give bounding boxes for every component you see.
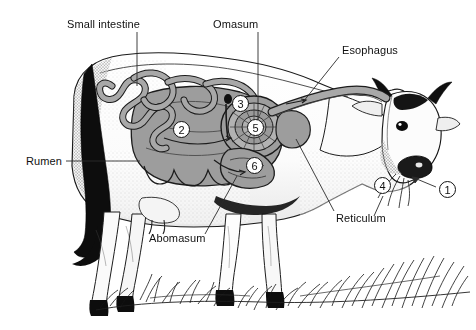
eye <box>396 121 408 131</box>
callout-number-4: 4 <box>374 177 391 194</box>
label-reticulum: Reticulum <box>336 212 386 224</box>
label-small-intestine: Small intestine <box>67 18 140 30</box>
horn-right <box>428 82 452 104</box>
front-leg-far <box>262 214 282 302</box>
callout-number-1: 1 <box>439 181 456 198</box>
callout-number-6: 6 <box>246 157 263 174</box>
hind-hoof-far <box>116 296 134 312</box>
cardia-marking <box>224 94 232 104</box>
label-esophagus: Esophagus <box>342 44 398 56</box>
muzzle <box>398 156 432 178</box>
label-abomasum: Abomasum <box>149 232 205 244</box>
callout-number-5: 5 <box>247 119 264 136</box>
front-hoof-far <box>266 292 284 308</box>
callout-number-3: 3 <box>232 95 249 112</box>
label-rumen: Rumen <box>26 155 62 167</box>
ear-right <box>436 117 460 131</box>
digestive-system-figure: Small intestine Omasum Esophagus Rumen A… <box>0 0 476 330</box>
label-omasum: Omasum <box>213 18 258 30</box>
reticulum-organ <box>276 111 310 148</box>
cow-anatomy-illustration <box>0 0 476 330</box>
callout-number-2: 2 <box>173 121 190 138</box>
nostril <box>416 163 423 168</box>
